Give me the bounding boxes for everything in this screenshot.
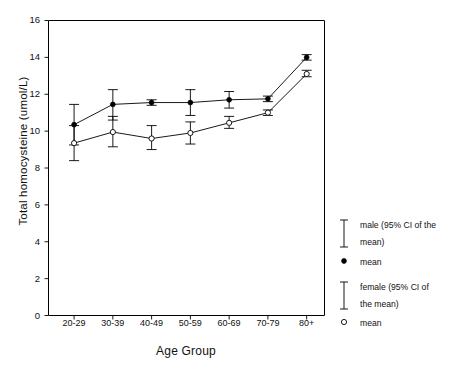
- datapoint-female-20-29: [71, 141, 76, 146]
- datapoint-female-30-39: [110, 129, 115, 134]
- legend-markers: [340, 220, 348, 325]
- datapoint-female-50-59: [188, 130, 193, 135]
- plot-frame: [49, 21, 325, 316]
- datapoint-female-80+: [304, 71, 309, 76]
- datapoint-male-80+: [304, 55, 309, 60]
- legend-female-mean-marker: [341, 319, 346, 324]
- legend-male-mean-marker: [342, 259, 347, 264]
- x-tickmarks: [74, 316, 307, 320]
- chart-canvas: [0, 0, 453, 373]
- datapoint-male-30-39: [110, 102, 115, 107]
- data-series-group: [69, 55, 312, 161]
- legend-female-ci-bar: [340, 282, 348, 309]
- datapoint-female-60-69: [227, 120, 232, 125]
- datapoint-female-70-79: [265, 110, 270, 115]
- datapoint-male-70-79: [266, 96, 271, 101]
- datapoint-female-40-49: [149, 136, 154, 141]
- legend-male-ci-bar: [340, 220, 348, 247]
- datapoint-male-60-69: [227, 97, 232, 102]
- datapoint-male-40-49: [149, 100, 154, 105]
- datapoint-male-50-59: [188, 100, 193, 105]
- y-tickmarks: [45, 21, 49, 316]
- chart-figure: Total homocysteine (umol/L) Age Group 16…: [0, 0, 453, 373]
